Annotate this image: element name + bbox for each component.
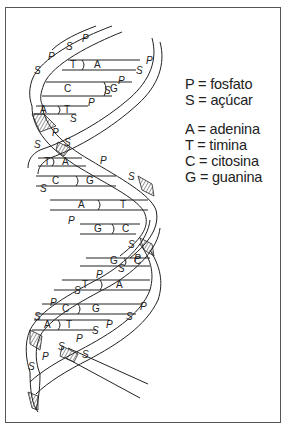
svg-text:S: S <box>128 171 135 182</box>
svg-text:A: A <box>40 104 47 115</box>
svg-text:S: S <box>126 311 133 322</box>
svg-text:P: P <box>50 297 57 308</box>
svg-text:C: C <box>62 303 69 314</box>
svg-text:S: S <box>74 285 81 296</box>
svg-text:P: P <box>140 301 147 312</box>
svg-text:A: A <box>62 156 69 167</box>
svg-text:G: G <box>110 255 118 266</box>
svg-text:S: S <box>82 349 89 360</box>
svg-text:S: S <box>28 361 35 372</box>
svg-text:S: S <box>34 65 41 76</box>
svg-text:A: A <box>44 319 51 330</box>
svg-text:P: P <box>96 269 103 280</box>
legend-thymine: T = timina <box>185 137 262 153</box>
svg-text:S: S <box>104 85 111 96</box>
svg-text:P: P <box>42 351 49 362</box>
legend-adenine: A = adenina <box>185 121 262 137</box>
svg-text:C: C <box>64 83 71 94</box>
svg-text:G: G <box>110 83 118 94</box>
svg-text:S: S <box>58 341 65 352</box>
svg-text:C: C <box>122 223 129 234</box>
svg-text:S: S <box>66 41 73 52</box>
legend-sugar: S = açúcar <box>185 92 262 108</box>
svg-text:S: S <box>34 311 41 322</box>
svg-text:C: C <box>52 175 59 186</box>
svg-text:P: P <box>82 33 89 44</box>
dna-double-helix: TA CG AT TA CG AT GC GC TA CG AT PSP S P… <box>0 0 289 432</box>
svg-text:T: T <box>120 199 126 210</box>
svg-text:S: S <box>70 113 77 124</box>
legend-cytosine: C = citosina <box>185 153 262 169</box>
svg-text:G: G <box>94 223 102 234</box>
svg-text:S: S <box>92 325 99 336</box>
svg-text:P: P <box>88 97 95 108</box>
svg-text:P: P <box>118 75 125 86</box>
svg-text:S: S <box>136 65 143 76</box>
svg-text:T: T <box>70 59 76 70</box>
svg-text:S: S <box>118 263 125 274</box>
svg-text:P: P <box>106 319 113 330</box>
legend-bases: A = adenina T = timina C = citosina G = … <box>185 121 262 185</box>
svg-text:T: T <box>82 279 88 290</box>
svg-text:T: T <box>44 156 50 167</box>
legend: P = fosfato S = açúcar A = adenina T = t… <box>185 76 262 198</box>
svg-text:P: P <box>76 333 83 344</box>
svg-text:T: T <box>66 319 72 330</box>
legend-backbone: P = fosfato S = açúcar <box>185 76 262 108</box>
svg-text:S: S <box>128 239 135 250</box>
legend-phosphate: P = fosfato <box>185 76 262 92</box>
svg-text:P: P <box>100 155 107 166</box>
svg-text:P: P <box>52 127 59 138</box>
svg-text:S: S <box>34 139 41 150</box>
svg-text:S: S <box>40 183 47 194</box>
svg-text:P: P <box>134 253 141 264</box>
svg-text:P: P <box>68 215 75 226</box>
svg-text:A: A <box>116 279 123 290</box>
legend-guanine: G = guanina <box>185 169 262 185</box>
svg-text:G: G <box>86 175 94 186</box>
svg-text:A: A <box>78 199 85 210</box>
svg-text:A: A <box>94 59 101 70</box>
svg-text:S: S <box>64 137 71 148</box>
svg-text:P: P <box>146 55 153 66</box>
svg-text:G: G <box>92 303 100 314</box>
svg-text:P: P <box>48 51 55 62</box>
